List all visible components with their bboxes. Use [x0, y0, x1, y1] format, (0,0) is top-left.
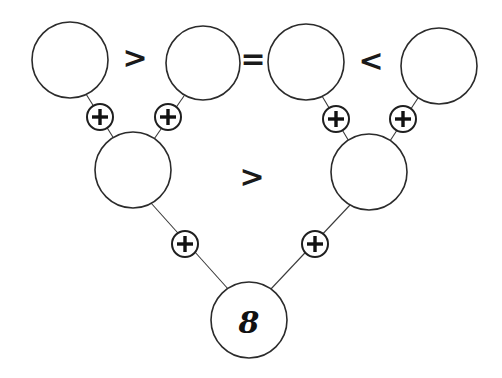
- relation-equals-icon: =: [240, 41, 265, 76]
- middle-circle-left[interactable]: [95, 132, 171, 208]
- plus-icon: [323, 106, 349, 132]
- puzzle-diagram: > = < > 8: [0, 0, 502, 378]
- relation-greater-than-icon: >: [122, 40, 147, 75]
- plus-icon: [390, 106, 416, 132]
- relation-less-than-icon: <: [358, 43, 383, 78]
- top-circle-3[interactable]: [268, 24, 344, 100]
- plus-icon: [302, 231, 328, 257]
- top-circle-1[interactable]: [32, 22, 108, 98]
- plus-icon: [87, 104, 113, 130]
- plus-icon: [172, 231, 198, 257]
- top-circle-4[interactable]: [401, 28, 477, 104]
- middle-circle-right[interactable]: [331, 134, 407, 210]
- plus-icon: [155, 104, 181, 130]
- sum-tree-puzzle: > = < > 8: [0, 0, 502, 378]
- middle-relation-greater-than-icon: >: [239, 159, 264, 194]
- bottom-circle-value: 8: [238, 305, 260, 340]
- top-circle-2[interactable]: [166, 26, 240, 100]
